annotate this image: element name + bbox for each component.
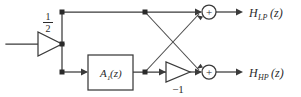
arrowhead-output-lowpass: [236, 9, 243, 16]
adder-bottom-plus-symbol: +: [206, 66, 212, 78]
wire-cross-bottom-to-top-adder: [145, 14, 199, 72]
negative-one-label: −1: [172, 83, 184, 95]
output-lowpass-label-argument: (z): [270, 6, 283, 20]
wire-cross-top-to-bottom-adder: [145, 12, 199, 70]
adder-top-plus-symbol: +: [206, 6, 212, 18]
junction-split-bottom: [60, 70, 65, 75]
one-half-numerator: 1: [46, 11, 51, 22]
junction-split-top: [60, 10, 65, 15]
filter-bank-diagram: 1 2 A 1 (z) −1 + +: [0, 0, 301, 97]
arrowhead-output-highpass: [236, 69, 243, 76]
output-lowpass-label-subscript: LP: [257, 13, 267, 22]
output-highpass-label-argument: (z): [271, 66, 284, 80]
output-highpass-label-subscript: HP: [257, 73, 269, 82]
arrowhead-into-allpass: [81, 69, 88, 76]
one-half-gain-triangle: [38, 32, 62, 56]
allpass-label-main: A: [99, 67, 107, 79]
allpass-label-argument: (z): [110, 67, 122, 80]
junction-top-tap: [143, 10, 148, 15]
arrowhead-into-adder-top-diagonal: [197, 15, 203, 20]
one-half-denominator: 2: [46, 23, 51, 34]
junction-split: [60, 42, 65, 47]
arrowhead-into-neg-gain: [159, 69, 166, 76]
diagram-canvas: 1 2 A 1 (z) −1 + +: [0, 0, 301, 97]
arrowhead-into-adder-bottom-diagonal: [197, 64, 203, 69]
negative-one-gain-triangle: [166, 62, 190, 82]
junction-bottom-tap: [143, 70, 148, 75]
